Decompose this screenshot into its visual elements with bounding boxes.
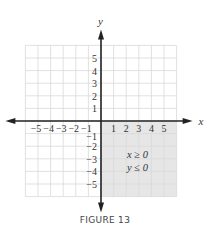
- y-tick-label: −5: [86, 179, 97, 190]
- y-tick-label: 2: [92, 91, 97, 102]
- coordinate-plane: xy−5−4−3−2−11234554321−1−2−3−4−5x ≥ 0y ≤…: [0, 0, 210, 235]
- x-tick-label: 1: [111, 123, 116, 134]
- x-tick-label: −4: [43, 123, 54, 134]
- x-tick-label: 2: [124, 123, 129, 134]
- x-axis-arrow-left-icon: [5, 118, 15, 124]
- x-tick-label: −5: [31, 123, 42, 134]
- x-tick-label: −3: [56, 123, 67, 134]
- y-tick-label: −4: [86, 166, 97, 177]
- y-tick-label: 5: [92, 53, 97, 64]
- x-tick-label: −2: [68, 123, 79, 134]
- x-axis-label: x: [198, 115, 204, 127]
- y-tick-label: 3: [92, 78, 97, 89]
- x-axis-arrow-right-icon: [183, 118, 193, 124]
- inequality-annotation: y ≤ 0: [126, 162, 149, 173]
- y-tick-label: 1: [92, 103, 97, 114]
- x-tick-label: 3: [136, 123, 141, 134]
- y-tick-label: 4: [92, 66, 97, 77]
- y-tick-label: −1: [86, 131, 97, 142]
- y-axis-label: y: [97, 15, 103, 27]
- inequality-annotation: x ≥ 0: [126, 149, 149, 160]
- y-axis-arrow-down-icon: [98, 203, 104, 213]
- x-tick-label: 4: [149, 123, 154, 134]
- figure-caption: FIGURE 13: [0, 215, 210, 225]
- y-tick-label: −3: [86, 154, 97, 165]
- x-tick-label: 5: [162, 123, 167, 134]
- y-axis-arrow-up-icon: [98, 29, 104, 39]
- y-tick-label: −2: [86, 141, 97, 152]
